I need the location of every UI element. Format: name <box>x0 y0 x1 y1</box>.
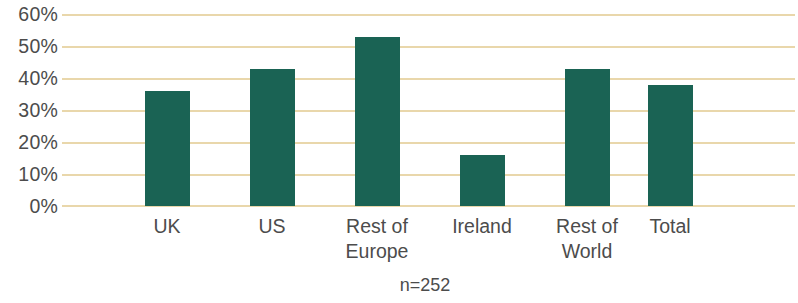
bar-total <box>648 85 693 206</box>
gridline-40 <box>62 78 795 80</box>
x-axis: UK US Rest of Europe Ireland Rest of Wor… <box>62 214 795 274</box>
x-tick-label-us: US <box>212 214 332 239</box>
bar-rest-of-world <box>565 69 610 206</box>
bar-chart: 60% 50% 40% 30% 20% 10% 0% UK US Rest of… <box>0 0 798 303</box>
y-tick-label-60: 60% <box>0 5 58 25</box>
x-tick-label-total: Total <box>610 214 730 239</box>
bar-us <box>250 69 295 206</box>
y-tick-label-50: 50% <box>0 37 58 57</box>
y-tick-label-20: 20% <box>0 133 58 153</box>
x-tick-label-rest-of-europe: Rest of Europe <box>317 214 437 264</box>
y-tick-label-30: 30% <box>0 101 58 121</box>
y-tick-label-40: 40% <box>0 69 58 89</box>
x-tick-label-ireland: Ireland <box>422 214 542 239</box>
x-tick-label-uk: UK <box>107 214 227 239</box>
bar-uk <box>145 91 190 206</box>
gridline-50 <box>62 46 795 48</box>
bar-rest-of-europe <box>355 37 400 206</box>
gridline-60 <box>62 14 795 16</box>
y-tick-label-0: 0% <box>0 197 58 217</box>
y-axis: 60% 50% 40% 30% 20% 10% 0% <box>0 0 58 220</box>
sample-size-annotation: n=252 <box>365 276 485 294</box>
y-tick-label-10: 10% <box>0 165 58 185</box>
bar-ireland <box>460 155 505 206</box>
plot-area <box>62 14 795 206</box>
